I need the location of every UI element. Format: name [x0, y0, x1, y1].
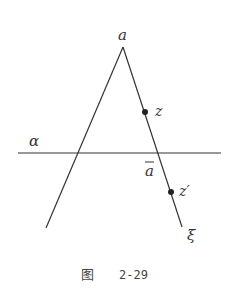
- label-xi: ξ: [187, 226, 196, 244]
- point-z: [142, 109, 148, 115]
- label-z-prime: z′: [178, 183, 190, 199]
- caption-prefix: 图: [81, 267, 94, 282]
- xi-ray-line: [123, 47, 182, 227]
- label-plane-alpha: α: [29, 132, 39, 150]
- left-ray-line: [46, 47, 123, 228]
- caption-number: 2-29: [119, 268, 148, 282]
- label-z: z: [154, 103, 163, 119]
- geometry-diagram: a z α a z′ ξ 图 2-29: [0, 0, 237, 307]
- label-a-bar: a: [145, 162, 154, 180]
- point-z-prime: [168, 189, 174, 195]
- label-apex-a: a: [118, 26, 127, 44]
